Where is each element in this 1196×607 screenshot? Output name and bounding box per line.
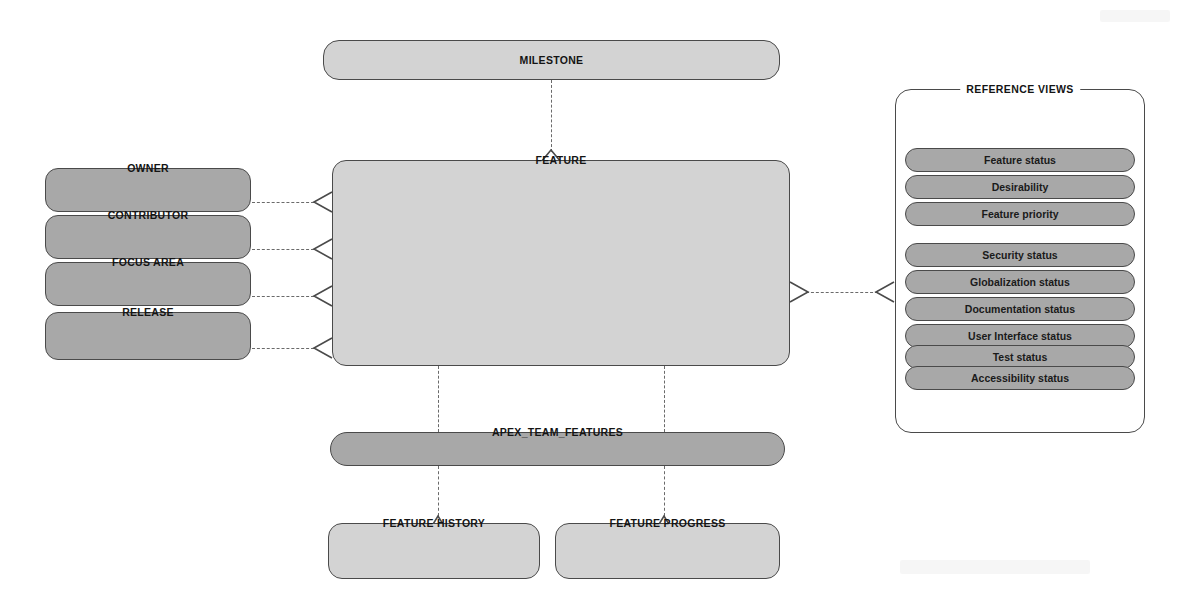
crows-foot-release <box>314 338 332 358</box>
entity-feature-progress-label: FEATURE PROGRESS <box>606 518 728 529</box>
reference-view-label: Test status <box>993 352 1048 363</box>
connector-contributor-feature <box>252 249 314 250</box>
reference-view-security-status[interactable]: Security status <box>905 243 1135 267</box>
crows-foot-reference-views <box>876 282 894 302</box>
reference-view-label: Globalization status <box>970 277 1070 288</box>
connector-feature-apex-left <box>438 366 439 432</box>
connector-milestone-feature <box>551 80 552 152</box>
entity-milestone-label: MILESTONE <box>520 55 584 66</box>
reference-view-desirability[interactable]: Desirability <box>905 175 1135 199</box>
crows-foot-contributor <box>314 239 332 259</box>
entity-focus-area[interactable]: FOCUS AREA <box>45 262 251 306</box>
reference-view-accessibility-status[interactable]: Accessibility status <box>905 366 1135 390</box>
entity-feature-progress[interactable]: FEATURE PROGRESS <box>555 523 780 579</box>
reference-view-label: User Interface status <box>968 331 1072 342</box>
crows-foot-focusarea <box>314 286 332 306</box>
paper-artifact <box>900 560 1090 574</box>
entity-feature[interactable]: FEATURE <box>332 160 790 366</box>
connector-release-feature <box>252 348 314 349</box>
connector-focusarea-feature <box>252 296 314 297</box>
entity-feature-history-label: FEATURE HISTORY <box>380 518 488 529</box>
reference-view-label: Accessibility status <box>971 373 1069 384</box>
entity-contributor-label: CONTRIBUTOR <box>105 210 192 221</box>
entity-owner-label: OWNER <box>124 163 172 174</box>
reference-view-globalization-status[interactable]: Globalization status <box>905 270 1135 294</box>
reference-view-label: Security status <box>982 250 1057 261</box>
reference-views-title: REFERENCE VIEWS <box>960 83 1080 95</box>
paper-artifact <box>1100 10 1170 22</box>
connector-feature-reference-views <box>806 292 878 293</box>
crows-foot-owner <box>314 192 332 212</box>
entity-release-label: RELEASE <box>119 307 177 318</box>
connector-owner-feature <box>252 202 314 203</box>
entity-feature-history[interactable]: FEATURE HISTORY <box>328 523 540 579</box>
reference-view-label: Feature priority <box>981 209 1058 220</box>
entity-apex-team-features[interactable]: APEX_TEAM_FEATURES <box>330 432 785 466</box>
reference-view-label: Documentation status <box>965 304 1075 315</box>
connector-apex-feature-history <box>438 466 439 516</box>
entity-release[interactable]: RELEASE <box>45 312 251 360</box>
connector-feature-apex-right <box>664 366 665 432</box>
entity-milestone[interactable]: MILESTONE <box>323 40 780 80</box>
reference-view-documentation-status[interactable]: Documentation status <box>905 297 1135 321</box>
diagram-canvas: MILESTONE OWNER CONTRIBUTOR FOCUS AREA R… <box>0 0 1196 607</box>
connector-apex-feature-progress <box>664 466 665 516</box>
entity-focus-area-label: FOCUS AREA <box>109 257 187 268</box>
reference-view-feature-status[interactable]: Feature status <box>905 148 1135 172</box>
entity-feature-label: FEATURE <box>533 155 590 166</box>
entity-contributor[interactable]: CONTRIBUTOR <box>45 215 251 259</box>
entity-apex-team-features-label: APEX_TEAM_FEATURES <box>489 427 626 438</box>
reference-view-label: Desirability <box>992 182 1049 193</box>
reference-view-label: Feature status <box>984 155 1056 166</box>
entity-owner[interactable]: OWNER <box>45 168 251 212</box>
reference-view-feature-priority[interactable]: Feature priority <box>905 202 1135 226</box>
